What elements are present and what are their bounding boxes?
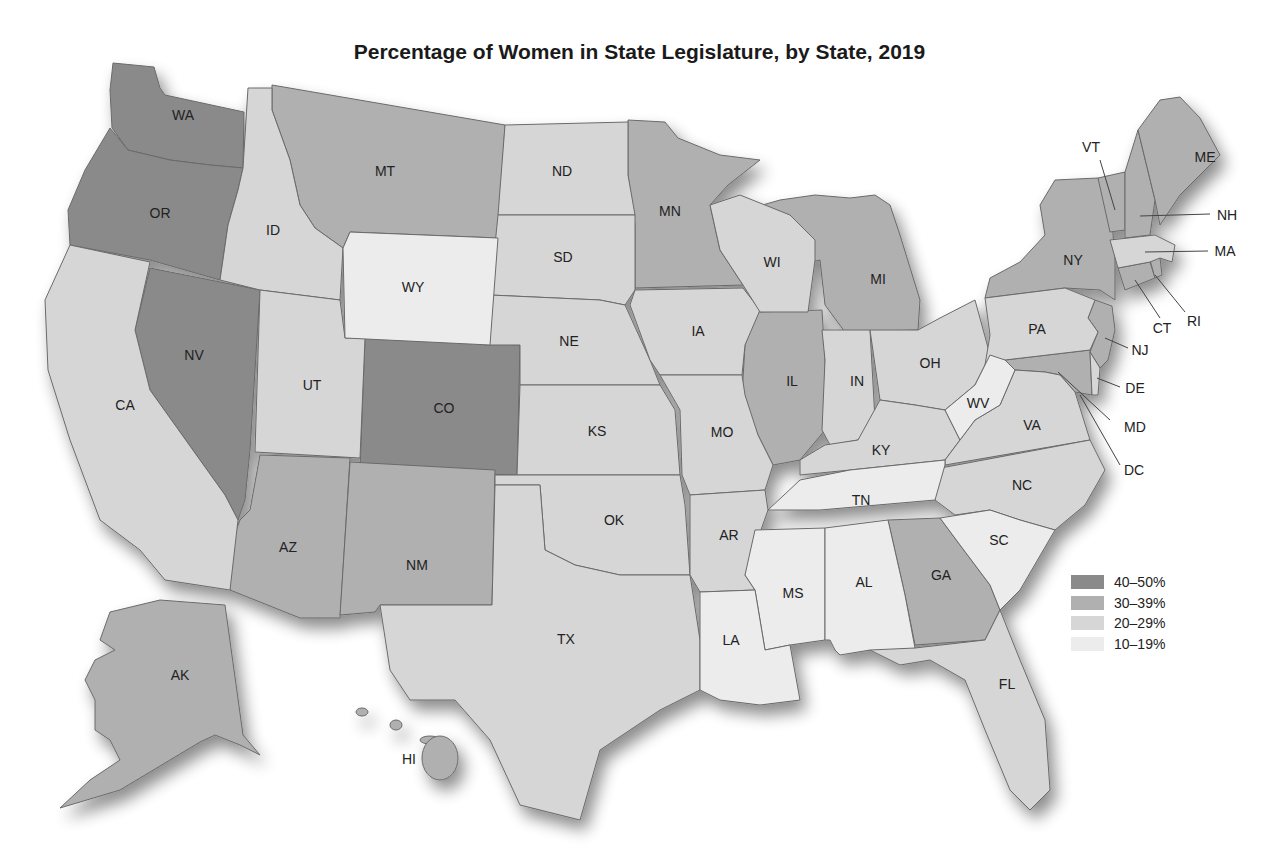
legend: 40–50% 30–39% 20–29% 10–19% [1071,572,1165,654]
label-al: AL [855,574,872,590]
label-me: ME [1195,149,1216,165]
state-nm[interactable] [340,462,495,615]
label-mi: MI [870,271,886,287]
label-ia: IA [691,323,705,339]
state-ak[interactable] [60,600,260,808]
label-sc: SC [989,532,1008,548]
label-nv: NV [184,347,204,363]
label-nc: NC [1012,477,1032,493]
label-ar: AR [719,527,738,543]
label-tn: TN [852,492,871,508]
label-wy: WY [402,279,425,295]
label-vt: VT [1082,139,1100,155]
legend-swatch-10-19 [1071,637,1104,651]
label-de: DE [1125,380,1144,396]
legend-label: 10–19% [1114,636,1165,652]
label-pa: PA [1028,321,1046,337]
label-ut: UT [303,377,322,393]
label-ok: OK [604,512,625,528]
label-tx: TX [557,631,576,647]
label-mt: MT [375,163,396,179]
label-fl: FL [999,676,1016,692]
label-ma: MA [1215,243,1237,259]
legend-swatch-20-29 [1071,616,1104,630]
label-la: LA [722,632,740,648]
label-ks: KS [588,423,607,439]
legend-item: 30–39% [1071,593,1165,614]
label-sd: SD [553,249,572,265]
state-ny[interactable] [985,178,1115,300]
label-ca: CA [115,397,135,413]
label-nm: NM [406,557,428,573]
label-ga: GA [931,567,952,583]
label-va: VA [1023,417,1041,433]
label-il: IL [786,373,798,389]
label-nd: ND [552,163,572,179]
label-id: ID [266,222,280,238]
us-map: WA OR CA NV ID MT WY UT CO AZ NM ND SD N… [0,0,1279,856]
label-in: IN [850,373,864,389]
legend-item: 40–50% [1071,572,1165,593]
legend-item: 10–19% [1071,634,1165,655]
label-ak: AK [171,667,190,683]
label-ky: KY [872,442,891,458]
label-ri: RI [1187,313,1201,329]
state-hi[interactable] [356,708,458,780]
label-nh: NH [1217,207,1237,223]
label-md: MD [1124,419,1146,435]
label-wi: WI [763,254,780,270]
legend-swatch-30-39 [1071,596,1104,610]
legend-label: 30–39% [1114,595,1165,611]
legend-label: 20–29% [1114,615,1165,631]
label-mn: MN [659,203,681,219]
label-mo: MO [711,424,734,440]
label-dc: DC [1124,462,1144,478]
label-ms: MS [783,585,804,601]
label-az: AZ [279,539,297,555]
legend-swatch-40-50 [1071,575,1104,589]
label-ny: NY [1063,252,1083,268]
label-co: CO [434,400,455,416]
legend-item: 20–29% [1071,613,1165,634]
label-ct: CT [1153,320,1172,336]
label-wv: WV [967,395,990,411]
label-nj: NJ [1131,342,1148,358]
label-oh: OH [920,355,941,371]
label-wa: WA [172,107,195,123]
label-or: OR [150,205,171,221]
label-hi: HI [402,751,416,767]
legend-label: 40–50% [1114,574,1165,590]
label-ne: NE [559,333,578,349]
